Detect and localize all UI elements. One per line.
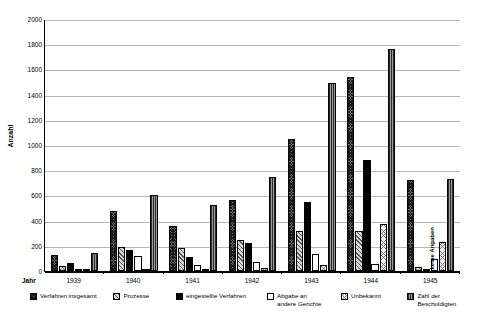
bar-vi-1939: [51, 255, 58, 271]
y-tick-label-400: 400: [31, 218, 42, 225]
bar-ag-1939: [75, 269, 82, 271]
bar-ev-1940: [126, 250, 133, 271]
bar-group-1939: [45, 20, 104, 271]
legend-label-un: Unbekannt: [351, 292, 381, 300]
x-tick-label-1942: 1942: [222, 274, 281, 288]
bar-group-1941: [164, 20, 223, 271]
legend-item-ag: Abgabe an andere Gerichte: [267, 292, 337, 307]
y-tick-label-1400: 1400: [28, 92, 42, 99]
y-tick-label-2000: 2000: [28, 17, 42, 24]
legend-item-vi: Verfahren insgesamt: [30, 292, 109, 300]
bar-ev-1939: [67, 263, 74, 271]
bar-ev-1943: [304, 202, 311, 271]
bar-vi-1942: [229, 200, 236, 271]
y-tick-label-200: 200: [31, 244, 42, 251]
bar-pr-1945: [415, 267, 422, 271]
y-tick-label-1200: 1200: [28, 118, 42, 125]
bar-ag-1942: [253, 262, 260, 271]
legend-item-zb: Zahl der Beschuldigten: [407, 292, 466, 307]
eingestellte-verfahren-swatch: [176, 293, 183, 300]
x-tick-label-1944: 1944: [341, 274, 400, 288]
x-tick-label-1945: 1945: [401, 274, 460, 288]
bar-zb-1940: [150, 195, 157, 271]
bar-ag-1944: [371, 264, 378, 271]
x-axis-title: Jahr: [22, 274, 36, 288]
chart-root: Anzahl 020040060080010001200140016001800…: [0, 0, 478, 322]
verfahren-insgesamt-swatch: [30, 293, 37, 300]
bar-zb-1945: [447, 179, 454, 271]
x-tick-label-1941: 1941: [163, 274, 222, 288]
plot-area: 0200400600800100012001400160018002000 ke…: [44, 20, 460, 272]
bar-zb-1943: [328, 83, 335, 271]
bar-zb-1941: [210, 205, 217, 271]
bar-pr-1942: [237, 240, 244, 271]
gridline-0: [45, 272, 460, 273]
bar-zb-1939: [91, 253, 98, 271]
bar-zb-1944: [388, 49, 395, 271]
abgabe-gerichte-swatch: [267, 293, 274, 300]
legend-label-vi: Verfahren insgesamt: [40, 292, 97, 300]
bar-un-1943: [320, 265, 327, 271]
bar-pr-1940: [118, 247, 125, 271]
bar-vi-1940: [110, 211, 117, 271]
bar-pr-1939: [59, 266, 66, 271]
bar-un-1944: [380, 224, 387, 271]
bar-ag-1943: [312, 254, 319, 271]
legend-label-zb: Zahl der Beschuldigten: [417, 292, 456, 307]
legend-label-ev: eingestellte Verfahren: [186, 292, 246, 300]
y-axis-title: Anzahl: [7, 125, 14, 148]
bar-vi-1943: [288, 139, 295, 271]
bar-pr-1941: [178, 248, 185, 271]
x-tick-label-1939: 1939: [44, 274, 103, 288]
bar-ev-1944: [363, 160, 370, 272]
bar-pr-1943: [296, 231, 303, 271]
legend-item-pr: Prozesse: [113, 292, 172, 300]
bar-un-1941: [202, 269, 209, 271]
y-tick-label-800: 800: [31, 168, 42, 175]
y-tick-label-600: 600: [31, 193, 42, 200]
bar-zb-1942: [269, 177, 276, 271]
bar-ag-1941: [194, 265, 201, 271]
bar-pr-1944: [355, 231, 362, 271]
unbekannt-swatch: [341, 293, 348, 300]
y-tick-label-1600: 1600: [28, 67, 42, 74]
y-tick-label-1800: 1800: [28, 42, 42, 49]
bar-group-1945: keine Angaben: [401, 20, 460, 271]
bar-vi-1945: [407, 180, 414, 271]
prozesse-swatch: [113, 293, 120, 300]
bar-vi-1941: [169, 226, 176, 271]
bar-group-1944: [341, 20, 400, 271]
bar-groups: keine Angaben: [45, 20, 460, 271]
bar-group-1940: [104, 20, 163, 271]
y-tick-label-1000: 1000: [28, 143, 42, 150]
y-tick-label-0: 0: [38, 269, 42, 276]
zahl-beschuldigten-swatch: [407, 293, 414, 300]
bar-group-1942: [223, 20, 282, 271]
bar-ev-1942: [245, 243, 252, 271]
bar-un-1945: [439, 242, 446, 271]
x-tick-label-1940: 1940: [103, 274, 162, 288]
bar-ag-1940: [134, 256, 141, 271]
x-tick-label-1943: 1943: [282, 274, 341, 288]
bar-ev-1941: [186, 257, 193, 271]
bar-un-1942: [261, 268, 268, 271]
legend-item-ev: eingestellte Verfahren: [176, 292, 263, 300]
annotation-keine-angaben: keine Angaben: [429, 227, 435, 269]
bar-un-1939: [83, 269, 90, 271]
legend-label-ag: Abgabe an andere Gerichte: [277, 292, 321, 307]
legend-label-pr: Prozesse: [123, 292, 149, 300]
bar-group-1943: [282, 20, 341, 271]
legend-item-un: Unbekannt: [341, 292, 403, 300]
bar-vi-1944: [347, 77, 354, 271]
y-axis-title-container: Anzahl: [8, 0, 22, 272]
x-axis-labels: 1939194019411942194319441945: [44, 274, 460, 288]
bar-un-1940: [142, 269, 149, 271]
chart-legend: Verfahren insgesamtProzesseeingestellte …: [30, 292, 470, 318]
